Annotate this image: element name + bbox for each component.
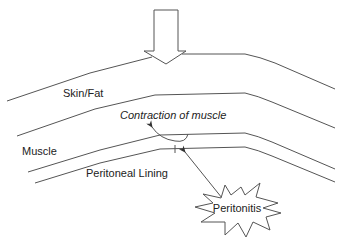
diagram-canvas: Skin/Fat Contraction of muscle Muscle Pe…: [0, 0, 342, 242]
skin-fat-label: Skin/Fat: [63, 87, 103, 99]
muscle-bottom-line: [28, 133, 335, 172]
peritoneal-lining-label: Peritoneal Lining: [86, 167, 168, 179]
peritonitis-label: Peritonitis: [213, 202, 262, 214]
pressure-arrow-icon: [144, 10, 186, 64]
peritonitis-arrow: [185, 152, 222, 198]
contraction-label: Contraction of muscle: [120, 109, 226, 121]
muscle-label: Muscle: [22, 145, 57, 157]
